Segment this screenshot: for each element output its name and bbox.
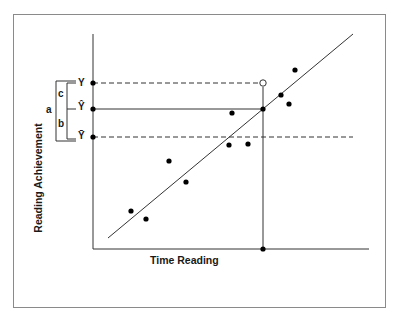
data-point: [278, 92, 283, 97]
data-point: [286, 101, 291, 106]
y-axis-label: Reading Achievement: [32, 123, 44, 232]
bracket-label-a: a: [46, 104, 52, 115]
data-point: [143, 216, 148, 221]
bracket-label-b: b: [58, 118, 64, 129]
x-axis-label: Time Reading: [150, 254, 219, 266]
data-point: [229, 110, 234, 115]
bracket-label-c: c: [58, 88, 64, 99]
predicted-point: [260, 106, 265, 111]
data-point: [226, 142, 231, 147]
data-point: [292, 67, 297, 72]
bracket-bc: [67, 83, 76, 139]
scatter-points: [128, 67, 297, 221]
x-axis-marker: [260, 246, 265, 251]
regression-diagram: Time Reading Reading Achievement a c b Y…: [0, 0, 396, 317]
label-predicted-y: Ŷ: [78, 101, 85, 112]
y-axis-marker-observed: [90, 80, 95, 85]
label-observed-y: Y: [78, 77, 85, 88]
regression-line: [108, 34, 353, 238]
y-axis-marker-mean: [90, 134, 95, 139]
label-mean-y: Ȳ: [78, 130, 85, 141]
data-point: [166, 158, 171, 163]
data-point: [245, 141, 250, 146]
diagram-canvas: [0, 0, 396, 317]
data-point: [128, 208, 133, 213]
data-point: [183, 179, 188, 184]
observed-point-open: [260, 80, 266, 86]
y-axis-marker-predicted: [90, 106, 95, 111]
